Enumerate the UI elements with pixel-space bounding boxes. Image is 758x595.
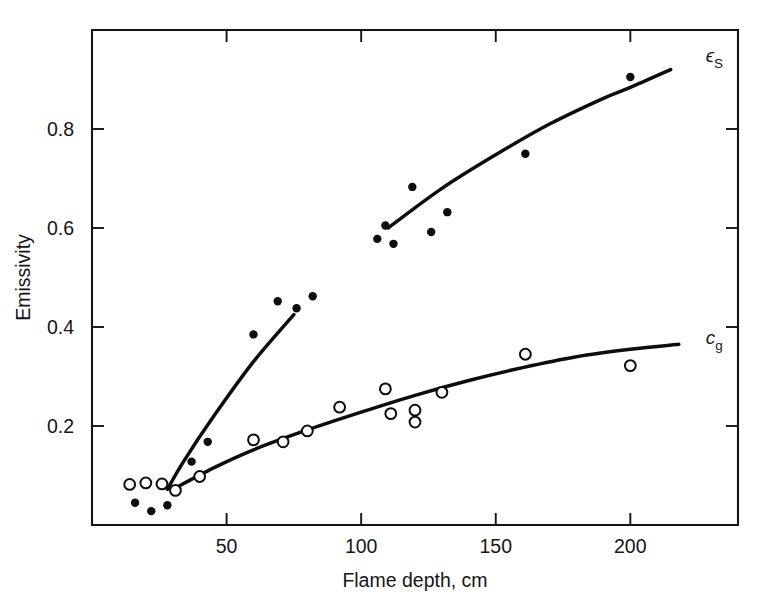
data-point-epsilon_S-1 [147,507,155,515]
data-point-epsilon_S-12 [408,183,416,191]
data-point-c_g-8 [334,402,345,413]
x-tick-label-50: 50 [216,535,238,557]
data-point-c_g-9 [380,383,391,394]
data-point-epsilon_S-7 [292,304,300,312]
data-point-epsilon_S-15 [521,150,529,158]
curve-epsilon_S-seg2 [388,70,671,228]
data-point-c_g-13 [437,387,448,398]
data-point-c_g-14 [520,349,531,360]
series-label-base-c_g: c [706,327,716,348]
data-point-c_g-0 [124,479,135,490]
data-point-c_g-12 [410,417,421,428]
data-point-c_g-1 [140,478,151,489]
data-point-c_g-15 [625,360,636,371]
data-points [124,73,635,516]
series-label-epsilon_S: ϵS [706,45,723,71]
x-axis-title: Flame depth, cm [342,569,487,591]
data-point-epsilon_S-14 [443,208,451,216]
data-point-c_g-11 [410,405,421,416]
series-label-c_g: cg [706,327,723,353]
data-point-c_g-3 [170,485,181,496]
series-label-sub-c_g: g [715,338,723,353]
data-point-c_g-2 [157,479,168,490]
data-point-epsilon_S-3 [187,457,195,465]
data-point-epsilon_S-13 [427,228,435,236]
data-point-c_g-4 [194,471,205,482]
data-point-epsilon_S-2 [163,501,171,509]
data-point-epsilon_S-8 [309,292,317,300]
data-point-epsilon_S-10 [381,221,389,229]
y-tick-label-0.2: 0.2 [47,415,74,437]
x-tick-label-100: 100 [345,535,378,557]
data-point-epsilon_S-4 [204,438,212,446]
data-point-c_g-7 [302,426,313,437]
data-point-epsilon_S-16 [626,73,634,81]
data-point-epsilon_S-0 [131,499,139,507]
fitted-curves [167,70,678,490]
data-point-epsilon_S-11 [389,240,397,248]
x-tick-label-150: 150 [480,535,513,557]
data-point-epsilon_S-6 [274,297,282,305]
axis-tick-labels: 501001502000.20.40.60.8 [47,118,647,557]
y-tick-label-0.8: 0.8 [47,118,74,140]
emissivity-vs-flame-depth-chart: 501001502000.20.40.60.8 ϵScg Flame depth… [0,0,758,595]
y-tick-label-0.6: 0.6 [47,217,74,239]
curve-epsilon_S-seg1 [167,315,294,490]
figure-container: 501001502000.20.40.60.8 ϵScg Flame depth… [0,0,758,595]
data-point-epsilon_S-9 [373,235,381,243]
y-tick-label-0.4: 0.4 [47,316,74,338]
x-tick-label-200: 200 [614,535,647,557]
data-point-c_g-6 [278,436,289,447]
y-axis-title: Emissivity [12,234,34,321]
series-label-sub-epsilon_S: S [714,56,723,71]
data-point-c_g-10 [385,408,396,419]
data-point-c_g-5 [248,434,259,445]
data-point-epsilon_S-5 [249,330,257,338]
series-labels: ϵScg [706,45,723,353]
